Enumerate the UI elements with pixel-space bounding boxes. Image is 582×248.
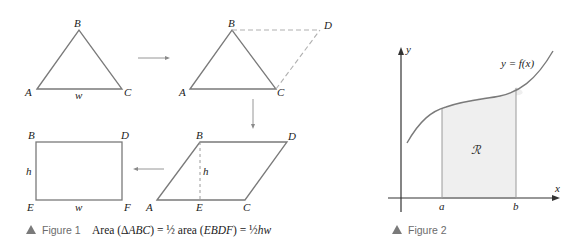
figure-canvas: A B C w A B C D A B [0, 0, 582, 248]
label-a: A [178, 86, 186, 98]
label-a: A [24, 86, 32, 98]
figure2: y x y = f(x) ℛ a b Figure 2 [388, 43, 560, 236]
label-c: C [243, 201, 251, 213]
caption-triangle-icon [26, 225, 36, 234]
x-axis-label: x [554, 182, 560, 194]
label-c: C [277, 86, 285, 98]
label-a: A [145, 201, 153, 213]
tick-label-b: b [513, 200, 519, 212]
arrow-right-icon [138, 56, 170, 60]
figure2-caption: Figure 2 [392, 224, 447, 236]
figure1: A B C w A B C D A B [24, 17, 332, 237]
caption-tag: Figure 1 [42, 224, 81, 236]
label-b: B [228, 17, 235, 29]
label-e: E [26, 201, 34, 213]
label-b: B [28, 129, 35, 141]
triangle-abc: A B C w [24, 17, 132, 101]
y-axis-label: y [405, 43, 411, 55]
x-axis-arrow-icon [552, 195, 560, 201]
label-h: h [26, 165, 32, 177]
parallelogram-abdc: A B C D E h [145, 129, 296, 213]
label-w: w [75, 201, 83, 213]
tick-label-a: a [439, 200, 445, 212]
label-d: D [120, 129, 129, 141]
y-axis-arrow-icon [398, 47, 404, 55]
caption-triangle-icon [392, 225, 402, 234]
arrow-down-icon [251, 99, 255, 129]
label-e: E [195, 201, 203, 213]
label-h: h [203, 165, 209, 177]
label-w: w [75, 89, 83, 101]
label-f: F [123, 201, 131, 213]
triangle-with-parallelogram-construction: A B C D [178, 17, 332, 98]
label-c: C [124, 86, 132, 98]
label-b: B [196, 129, 203, 141]
label-d: D [323, 19, 332, 31]
caption-tag: Figure 2 [408, 224, 447, 236]
figure1-caption: Figure 1 Area (ΔABC) = ½ area (EBDF) = ½… [26, 224, 271, 237]
label-d: D [287, 130, 296, 142]
region-label: ℛ [471, 143, 482, 157]
label-b: B [74, 17, 81, 29]
caption-formula: Area (ΔABC) = ½ area (EBDF) = ½hw [92, 224, 271, 237]
curve-label: y = f(x) [500, 57, 534, 70]
arrow-left-icon [133, 167, 164, 171]
rectangle-ebdf: B D E F h w [26, 129, 131, 213]
